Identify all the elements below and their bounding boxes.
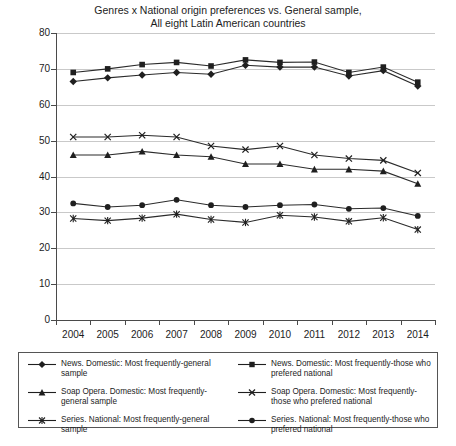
x-axis-tick [435,320,436,325]
y-axis-label: 80 [22,28,50,38]
plot-area: 01020304050607080 2004200520062007200820… [56,33,435,320]
chart-legend: News. Domestic: Most frequently-general … [18,352,438,428]
chart-container: Genres x National origin preferences vs.… [0,0,456,446]
legend-marker-asterisk-icon [27,416,57,425]
legend-entry: Series. National: Most frequently-those … [237,415,433,435]
y-axis-label: 40 [22,172,50,182]
legend-entry: News. Domestic: Most frequently-general … [27,359,232,379]
data-series [70,210,421,233]
data-point-square [381,64,387,70]
data-point-circle [312,202,318,208]
series-line [73,135,418,173]
data-point-circle [346,206,352,212]
data-series-layer [56,33,435,320]
chart-title: Genres x National origin preferences vs.… [0,4,456,30]
x-axis-label: 2014 [398,329,438,340]
data-point-square [105,66,111,72]
data-point-circle [243,204,249,210]
legend-entry: Series. National: Most frequently-genera… [27,415,232,435]
y-axis-label: 60 [22,100,50,110]
legend-marker-triangle-icon [27,388,57,397]
data-point-circle [208,202,214,208]
data-series [70,148,422,187]
series-line [73,151,418,183]
data-point-square [312,59,318,65]
legend-label: News. Domestic: Most frequently-those wh… [271,359,433,379]
data-point-square [277,60,283,66]
data-point-circle [139,202,145,208]
legend-label: Series. National: Most frequently-those … [271,415,433,435]
data-point-diamond [70,78,77,85]
legend-marker-diamond-icon [27,360,57,369]
data-point-circle [380,205,386,211]
data-point-square [346,70,352,76]
y-axis-label: 20 [22,243,50,253]
legend-entry: News. Domestic: Most frequently-those wh… [237,359,433,379]
legend-entry: Soap Opera. Domestic: Most frequently-th… [237,387,433,407]
data-point-cross [415,170,421,176]
data-point-circle [70,201,76,207]
x-axis-line [56,320,435,321]
data-point-circle [277,202,283,208]
data-point-square [208,63,214,69]
y-axis-label: 50 [22,136,50,146]
legend-label: Series. National: Most frequently-genera… [61,415,232,435]
y-axis-label: 30 [22,207,50,217]
legend-label: Soap Opera. Domestic: Most frequently-ge… [61,387,232,407]
legend-marker-cross-icon [237,388,267,397]
data-point-diamond [173,69,180,76]
data-series [70,57,420,85]
y-axis-label: 0 [22,315,50,325]
data-point-circle [105,204,111,210]
y-axis-label: 70 [22,64,50,74]
data-series [70,197,420,219]
data-point-circle [415,213,421,219]
legend-label: News. Domestic: Most frequently-general … [61,359,232,379]
data-point-square [139,62,145,68]
data-point-triangle [414,180,421,187]
data-point-diamond [207,71,214,78]
data-point-diamond [104,74,111,81]
legend-label: Soap Opera. Domestic: Most frequently-th… [271,387,433,407]
data-point-square [243,57,249,63]
legend-entry: Soap Opera. Domestic: Most frequently-ge… [27,387,232,407]
y-axis-label: 10 [22,279,50,289]
data-series [70,62,422,90]
chart-title-line-2: All eight Latin American countries [0,17,456,30]
data-point-square [174,60,180,66]
data-point-diamond [138,71,145,78]
data-series [70,132,421,176]
legend-marker-circle-icon [237,416,267,425]
data-point-asterisk [415,226,421,233]
chart-title-line-1: Genres x National origin preferences vs.… [0,4,456,17]
data-point-square [70,70,76,76]
data-point-square [415,79,421,85]
data-point-circle [174,197,180,203]
legend-marker-square-icon [237,360,267,369]
